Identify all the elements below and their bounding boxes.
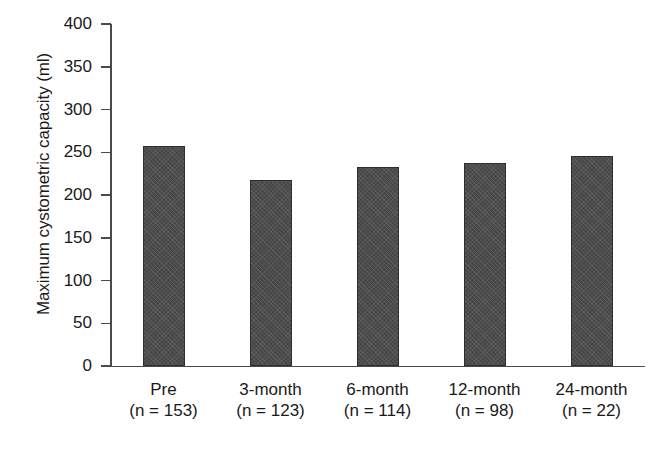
- category-sample-size: (n = 98): [431, 400, 538, 421]
- bar-chart: Maximum cystometric capacity (ml) 400350…: [0, 0, 650, 452]
- category-name: 6-month: [324, 379, 431, 400]
- x-axis-category-label: 12-month(n = 98): [431, 379, 538, 421]
- category-name: 3-month: [217, 379, 324, 400]
- category-sample-size: (n = 114): [324, 400, 431, 421]
- category-name: 12-month: [431, 379, 538, 400]
- category-sample-size: (n = 153): [110, 400, 217, 421]
- category-sample-size: (n = 123): [217, 400, 324, 421]
- x-axis-category-label: 3-month(n = 123): [217, 379, 324, 421]
- bar: [143, 146, 185, 366]
- bar: [250, 180, 292, 366]
- bar: [464, 163, 506, 366]
- x-axis-category-label: 6-month(n = 114): [324, 379, 431, 421]
- x-axis-category-label: Pre(n = 153): [110, 379, 217, 421]
- category-name: Pre: [110, 379, 217, 400]
- bar: [571, 156, 613, 366]
- category-name: 24-month: [538, 379, 645, 400]
- x-axis-category-label: 24-month(n = 22): [538, 379, 645, 421]
- category-sample-size: (n = 22): [538, 400, 645, 421]
- bar: [357, 167, 399, 366]
